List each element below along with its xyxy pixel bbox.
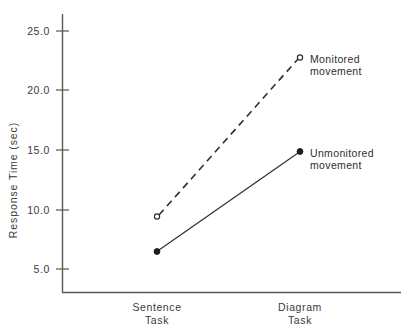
- series-unmonitored-movement: [154, 149, 303, 255]
- y-tick-label-20: 20.0: [27, 84, 50, 96]
- y-tick-label-15: 15.0: [27, 144, 50, 156]
- chart-canvas: 25.0 20.0 15.0 10.0 5.0 Response Time (s…: [0, 0, 408, 330]
- data-point-unmonitored-sentence: [154, 249, 160, 255]
- legend-monitored-movement: Monitored movement: [310, 53, 362, 77]
- data-point-monitored-sentence: [154, 214, 159, 219]
- legend-unmonitored-movement: Unmonitored movement: [310, 147, 374, 171]
- series-unmonitored-line: [159, 153, 298, 250]
- series-monitored-line: [159, 59, 298, 215]
- legend-monitored-line2: movement: [310, 65, 362, 77]
- response-time-line-chart: 25.0 20.0 15.0 10.0 5.0 Response Time (s…: [0, 0, 408, 330]
- series-monitored-movement: [154, 55, 302, 219]
- legend-monitored-line1: Monitored: [310, 53, 360, 65]
- data-point-unmonitored-diagram: [297, 149, 303, 155]
- legend-unmonitored-line1: Unmonitored: [310, 147, 374, 159]
- y-tick-label-25: 25.0: [27, 25, 50, 37]
- y-tick-label-5: 5.0: [34, 263, 50, 275]
- data-point-monitored-diagram: [297, 55, 302, 60]
- category-sentence-line1: Sentence: [132, 301, 181, 313]
- legend-unmonitored-line2: movement: [310, 159, 362, 171]
- x-axis-category-diagram-task: Diagram Task: [278, 301, 322, 326]
- y-tick-label-10: 10.0: [27, 204, 50, 216]
- y-axis-title: Response Time (sec): [7, 122, 19, 238]
- category-diagram-line1: Diagram: [278, 301, 322, 313]
- x-axis-category-sentence-task: Sentence Task: [132, 301, 181, 326]
- category-diagram-line2: Task: [288, 314, 312, 326]
- category-sentence-line2: Task: [145, 314, 169, 326]
